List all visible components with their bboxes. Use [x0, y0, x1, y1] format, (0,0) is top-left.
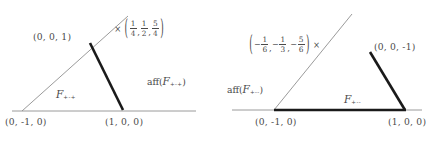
left-paren-open: ( — [125, 17, 129, 40]
right-aff-suffix: ) — [260, 84, 264, 95]
left-fraction-1: 1 4 — [130, 20, 137, 38]
right-fraction-3: 5 6 — [298, 36, 305, 54]
left-fraction-2: 1 2 — [141, 20, 148, 38]
left-fraction-2-denominator: 2 — [141, 30, 148, 38]
right-paren-close: ) — [306, 33, 310, 56]
left-face-subscript: +-+ — [63, 94, 75, 100]
right-vertex-bottom-left-label: (0, -1, 0) — [255, 117, 297, 126]
right-sign-3: − — [290, 41, 297, 49]
figure-canvas: (0, 0, 1) (0, -1, 0) (1, 0, 0) F+-+ aff(… — [0, 0, 443, 147]
right-face-subscript: +-- — [351, 99, 361, 105]
left-aff-prefix: aff( — [147, 76, 163, 87]
left-vertex-apex-label: (0, 0, 1) — [33, 32, 71, 41]
right-vertex-bottom-right-label: (1, 0, 0) — [388, 117, 426, 126]
right-fraction-1: 1 6 — [261, 36, 268, 54]
right-sign-2: − — [272, 41, 279, 49]
left-aff-symbol: F — [163, 75, 170, 87]
left-fraction-3-denominator: 4 — [152, 30, 159, 38]
right-thin-extended-edge — [274, 14, 352, 110]
right-aff-subscript: +-- — [250, 89, 260, 95]
left-fraction-2-numerator: 1 — [141, 20, 148, 28]
left-fraction-1-numerator: 1 — [130, 20, 137, 28]
right-vertex-apex-label: (0, 0, -1) — [374, 42, 416, 51]
right-fraction-2-numerator: 1 — [280, 36, 287, 44]
left-times-icon: × — [114, 25, 121, 33]
right-face-label: F+-- — [344, 94, 361, 106]
right-fraction-2: 1 3 — [279, 36, 286, 54]
left-comma-2: , — [148, 28, 151, 38]
left-vertex-bottom-left-label: (0, -1, 0) — [5, 117, 47, 126]
left-scalar-expression: × ( 1 4 , 1 2 , 5 4 ) — [112, 20, 165, 38]
right-fraction-3-denominator: 6 — [298, 46, 305, 54]
right-aff-prefix: aff( — [227, 84, 243, 95]
diagram-panel-left: (0, 0, 1) (0, -1, 0) (1, 0, 0) F+-+ aff(… — [0, 0, 221, 147]
left-paren-close: ) — [160, 17, 164, 40]
right-scalar-expression: ( − 1 6 , − 1 3 , − 5 — [248, 36, 322, 54]
right-fraction-1-denominator: 6 — [261, 46, 268, 54]
right-fraction-2-denominator: 3 — [280, 46, 287, 54]
left-comma-1: , — [137, 28, 140, 38]
right-fraction-3-numerator: 5 — [298, 36, 305, 44]
right-times-icon: × — [313, 41, 320, 49]
diagram-panel-right: (0, 0, -1) (0, -1, 0) (1, 0, 0) F+-- aff… — [222, 0, 443, 147]
right-thick-face-edge — [370, 52, 405, 110]
left-aff-subscript: +-+ — [170, 81, 182, 87]
right-affine-hull-label: aff(F+--) — [227, 84, 263, 96]
left-affine-hull-label: aff(F+-+) — [147, 76, 186, 88]
left-aff-suffix: ) — [182, 76, 186, 87]
right-paren-open: ( — [249, 33, 253, 56]
left-fraction-3: 5 4 — [152, 20, 159, 38]
left-vertex-bottom-right-label: (1, 0, 0) — [105, 117, 143, 126]
left-thick-face-edge — [90, 43, 123, 110]
left-fraction-1-denominator: 4 — [130, 30, 137, 38]
right-sign-1: − — [254, 41, 261, 49]
right-aff-symbol: F — [243, 83, 250, 95]
left-face-label: F+-+ — [56, 89, 76, 101]
right-fraction-1-numerator: 1 — [261, 36, 268, 44]
left-fraction-3-numerator: 5 — [152, 20, 159, 28]
